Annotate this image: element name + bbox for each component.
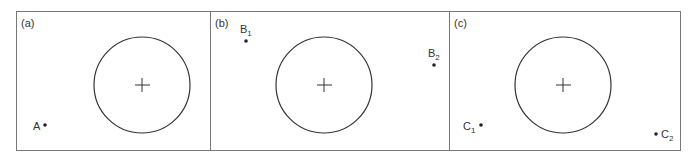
point-label: A	[33, 120, 41, 132]
panel-label: (b)	[215, 17, 228, 29]
point-c1	[479, 123, 483, 127]
diagram: (a) A (b) B1 B2 (c) C1 C2	[0, 0, 692, 160]
point-a	[43, 123, 47, 127]
point-label: C2	[661, 128, 674, 143]
panel-label: (a)	[21, 17, 34, 29]
panel-a: (a) A	[21, 17, 190, 133]
panel-label: (c)	[454, 17, 467, 29]
point-label: C1	[463, 120, 476, 135]
panel-b: (b) B1 B2	[215, 17, 440, 133]
point-b2	[432, 63, 436, 67]
point-b1	[244, 39, 248, 43]
panel-c: (c) C1 C2	[454, 17, 674, 143]
point-label: B1	[240, 23, 252, 38]
point-c2	[654, 132, 658, 136]
point-label: B2	[428, 47, 440, 62]
